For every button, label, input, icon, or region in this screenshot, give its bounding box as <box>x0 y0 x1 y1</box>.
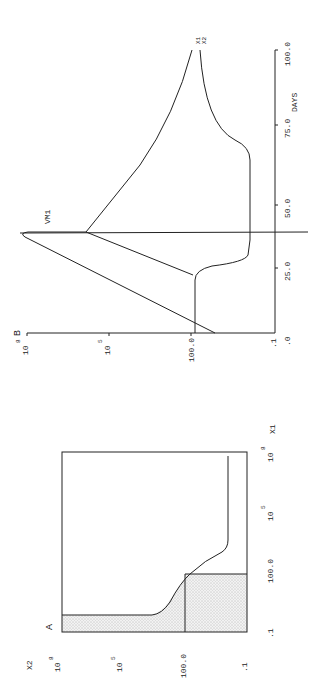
tick-label: 75.0 <box>283 119 292 138</box>
series-x1 <box>23 50 215 333</box>
tick-label: 25.0 <box>283 262 292 281</box>
panel-a-y-axis-title: X2 <box>25 660 34 670</box>
tick-label: .1 <box>240 662 249 672</box>
shaded-box <box>185 574 247 632</box>
tick-label: 100.0 <box>179 654 188 678</box>
tick-label: 10 <box>103 345 112 355</box>
panel-a-label: A <box>44 624 54 630</box>
tick-exp: 5 <box>97 339 104 343</box>
tick-exp: 5 <box>260 505 267 509</box>
tick-label: .1 <box>269 338 278 348</box>
panel-a-x-axis-title: X1 <box>268 424 277 434</box>
tick-label: .0 <box>283 336 292 346</box>
tick-label: 10 <box>21 345 30 355</box>
tick-exp: 5 <box>110 656 117 660</box>
tick-exp: 8 <box>48 656 55 660</box>
tick-label: 50.0 <box>283 199 292 218</box>
panel-a-x-tick-labels: .1 100.0 10 5 10 8 <box>260 446 275 638</box>
tick-label: 10 <box>53 662 62 672</box>
panel-b-label: B <box>12 330 22 336</box>
panel-a-y-tick-labels: 10 8 10 5 100.0 .1 <box>48 654 249 678</box>
tick-label: 10 <box>266 452 275 462</box>
tick-label: 100.0 <box>187 338 196 362</box>
panel-b-x-axis-title: DAYS <box>290 93 299 112</box>
tick-label: .1 <box>266 628 275 638</box>
tick-exp: 8 <box>15 339 22 343</box>
tick-label: 100.0 <box>283 42 292 66</box>
figure-canvas: B 10 8 10 5 100.0 .1 .0 25.0 50.0 75.0 1… <box>0 0 319 691</box>
tick-label: 10 <box>115 662 124 672</box>
tick-exp: 8 <box>260 446 267 450</box>
panel-b: B 10 8 10 5 100.0 .1 .0 25.0 50.0 75.0 1… <box>12 36 308 362</box>
tick-label: 10 <box>266 511 275 521</box>
series-link <box>86 232 193 275</box>
panel-a: A .1 100.0 10 5 10 8 X1 10 8 10 5 100.0 … <box>25 424 277 678</box>
panel-b-x-tick-labels: .0 25.0 50.0 75.0 100.0 <box>283 42 292 346</box>
series-label-x2: X2 <box>201 36 208 44</box>
panel-b-y-tick-labels: 10 8 10 5 100.0 .1 <box>15 338 278 362</box>
tick-label: 100.0 <box>266 559 275 583</box>
vm1-label: VM1 <box>43 209 52 224</box>
series-x2 <box>195 50 250 333</box>
